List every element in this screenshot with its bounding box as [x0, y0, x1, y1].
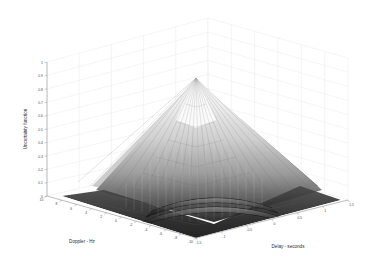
figure-canvas: 1 0.9 0.8 0.7 0.6 0.5 0.4 0.3 0.2 0.1 0 …: [0, 0, 373, 279]
z-tick-label: 0.3: [38, 155, 43, 159]
z-tick-label: 0.9: [38, 74, 43, 78]
y-tick-label: -1.5: [196, 241, 202, 245]
x-tick-label: 6: [70, 207, 72, 211]
y-tick-label: 0: [274, 222, 276, 226]
y-tick-label: -0.5: [246, 228, 252, 232]
x-tick-label: -4: [144, 228, 147, 232]
x-tick-label: 0: [115, 219, 117, 223]
x-tick-label: -10: [188, 240, 193, 244]
y-tick-label: 1.5: [349, 203, 354, 207]
y-axis-title: Delay - seconds: [272, 244, 306, 249]
y-tick-label: 0.5: [297, 216, 302, 220]
z-tick-label: 0.4: [38, 141, 43, 145]
z-tick-label: 1: [41, 61, 43, 65]
z-tick-label: 0.5: [38, 128, 43, 132]
surface-plot-3d: 1 0.9 0.8 0.7 0.6 0.5 0.4 0.3 0.2 0.1 0 …: [0, 0, 373, 279]
x-tick-label: -6: [159, 232, 162, 236]
z-tick-label: 0.1: [38, 181, 43, 185]
x-tick-label: 10: [40, 198, 44, 202]
z-tick-label: 0.2: [38, 168, 43, 172]
y-tick-label: -1: [222, 235, 225, 239]
z-tick-label: 0.6: [38, 114, 43, 118]
z-axis-tick-labels: 1 0.9 0.8 0.7 0.6 0.5 0.4 0.3 0.2 0.1 0: [38, 61, 43, 199]
x-tick-label: 8: [55, 202, 57, 206]
z-axis-title: Uncertainty function: [23, 108, 28, 149]
x-tick-label: -2: [129, 223, 132, 227]
y-tick-label: 1: [324, 209, 326, 213]
x-tick-label: 2: [100, 215, 102, 219]
z-tick-label: 0.8: [38, 88, 43, 92]
x-tick-label: 4: [85, 211, 87, 215]
x-tick-label: -8: [174, 236, 177, 240]
x-axis-title: Doppler - Hz: [69, 239, 95, 244]
z-tick-label: 0.7: [38, 101, 43, 105]
z-axis-ticks: [45, 62, 48, 197]
